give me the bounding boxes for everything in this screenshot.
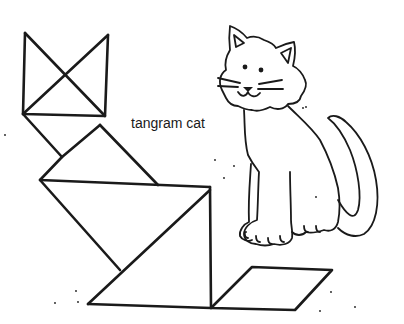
tangram-ears (23, 33, 108, 116)
cat-left-eye (243, 65, 248, 70)
cat-head-outline (220, 26, 306, 111)
cat-left-ear-icon (234, 35, 244, 47)
tangram-body-triangles (40, 180, 211, 308)
cat-body-outline (244, 110, 292, 246)
speckles (4, 106, 356, 312)
tangram-parallelogram-tail (211, 267, 332, 310)
tangram-head-square (23, 114, 100, 157)
cat-mouth (238, 92, 260, 96)
tangram-neck-triangle (40, 125, 210, 187)
cat-right-ear-icon (281, 48, 291, 63)
tangram-cat-figure (23, 33, 332, 310)
caption-label: tangram cat (131, 115, 205, 131)
cat-paws (245, 226, 320, 244)
illustration (0, 0, 404, 324)
cat-back-outline (288, 106, 340, 235)
cat-right-eye (259, 68, 264, 73)
